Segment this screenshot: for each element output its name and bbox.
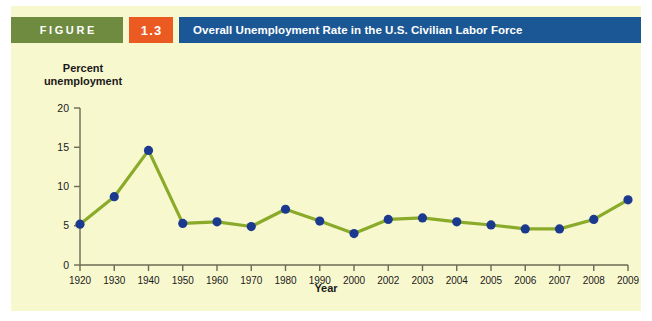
data-point-marker <box>247 222 256 231</box>
data-point-marker <box>212 217 221 226</box>
data-point-marker <box>144 146 153 155</box>
data-point-marker <box>281 205 290 214</box>
data-line <box>80 150 628 233</box>
data-markers <box>75 146 632 238</box>
y-tick-label: 15 <box>57 141 69 153</box>
figure-header: FIGURE 1.3 Overall Unemployment Rate in … <box>11 17 641 43</box>
data-point-marker <box>349 229 358 238</box>
figure-label-badge: FIGURE <box>11 17 123 43</box>
y-tick-label: 5 <box>63 219 69 231</box>
data-point-marker <box>110 192 119 201</box>
data-point-marker <box>178 219 187 228</box>
chart-area: Percent unemployment 05101520 1920193019… <box>11 50 641 311</box>
figure-number-badge: 1.3 <box>129 17 173 43</box>
y-tick-label: 10 <box>57 180 69 192</box>
data-point-marker <box>589 215 598 224</box>
figure-title: Overall Unemployment Rate in the U.S. Ci… <box>179 17 641 43</box>
figure-root: FIGURE 1.3 Overall Unemployment Rate in … <box>0 0 652 321</box>
data-point-marker <box>486 220 495 229</box>
data-point-marker <box>623 195 632 204</box>
data-point-marker <box>384 215 393 224</box>
data-point-marker <box>452 217 461 226</box>
data-point-marker <box>555 224 564 233</box>
data-point-marker <box>521 224 530 233</box>
line-chart-plot: 05101520 1920193019401950196019701980199… <box>11 50 641 311</box>
y-tick-label: 20 <box>57 102 69 114</box>
data-point-marker <box>75 220 84 229</box>
data-point-marker <box>418 213 427 222</box>
data-point-marker <box>315 216 324 225</box>
x-axis-title: Year <box>11 282 641 294</box>
y-tick-label: 0 <box>63 259 69 271</box>
y-axis-ticks: 05101520 <box>57 102 80 271</box>
